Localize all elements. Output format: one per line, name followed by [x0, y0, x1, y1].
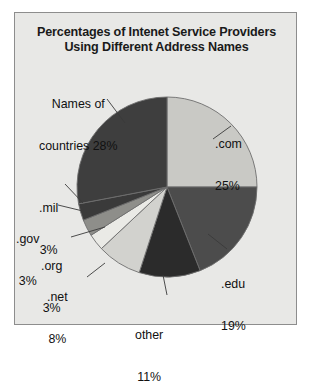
pie-label-mil-line-2: 3%: [39, 243, 58, 257]
pie-label-countries-line-2: countries 28%: [39, 139, 118, 153]
pie-label-edu: .edu 19%: [221, 249, 246, 361]
pie-label-other-line-1: other: [135, 328, 163, 342]
pie-label-gov-line-1: .gov: [16, 232, 39, 246]
pie-label-countries: Names of countries 28%: [39, 69, 118, 181]
pie-slice-com[interactable]: [167, 97, 257, 187]
pie-label-mil-line-1: .mil: [39, 201, 58, 215]
pie-label-com: .com 25%: [215, 109, 242, 221]
pie-label-countries-line-1: Names of: [39, 97, 118, 111]
pie-label-gov: .gov 3%: [16, 204, 39, 316]
pie-label-com-line-2: 25%: [215, 179, 242, 193]
pie-label-com-line-1: .com: [215, 137, 242, 151]
chart-panel: Percentages of Intenet Service Providers…: [14, 12, 297, 325]
pie-label-org-line-2: 3%: [41, 301, 62, 315]
leader-net: [87, 263, 105, 277]
pie-label-other-line-2: 11%: [135, 370, 163, 384]
pie-label-edu-line-2: 19%: [221, 319, 246, 333]
pie-label-mil: .mil 3%: [39, 173, 58, 285]
pie-label-gov-line-2: 3%: [16, 274, 39, 288]
leader-other: [163, 275, 167, 295]
pie-label-other: other 11%: [135, 300, 163, 385]
pie-label-edu-line-1: .edu: [221, 277, 246, 291]
